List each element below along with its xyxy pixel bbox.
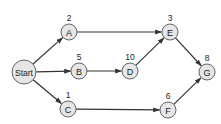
node-G: G8 bbox=[199, 53, 215, 80]
node-weight-E: 3 bbox=[168, 13, 173, 23]
node-label-A: A bbox=[66, 28, 72, 38]
node-label-F: F bbox=[165, 106, 171, 116]
edge-start-to-C bbox=[33, 80, 61, 104]
node-F: F6 bbox=[160, 91, 176, 118]
edge-start-to-A bbox=[33, 38, 63, 64]
node-weight-A: 2 bbox=[67, 13, 72, 23]
node-weight-G: 8 bbox=[205, 53, 210, 63]
node-weight-F: 6 bbox=[166, 91, 171, 101]
node-start: Start bbox=[12, 60, 36, 84]
node-weight-C: 1 bbox=[66, 90, 71, 100]
node-label-B: B bbox=[76, 67, 82, 77]
nodes-layer: StartA2B5C1D10E3F6G8 bbox=[12, 13, 215, 118]
network-diagram: StartA2B5C1D10E3F6G8 bbox=[0, 0, 221, 124]
node-A: A2 bbox=[61, 13, 77, 40]
node-C: C1 bbox=[60, 90, 76, 117]
node-label-start: Start bbox=[15, 68, 34, 78]
edges-layer bbox=[33, 32, 201, 110]
node-B: B5 bbox=[71, 52, 87, 79]
node-label-G: G bbox=[203, 68, 210, 78]
node-D: D10 bbox=[122, 52, 138, 79]
node-weight-B: 5 bbox=[77, 52, 82, 62]
node-label-E: E bbox=[167, 28, 173, 38]
edge-C-to-F bbox=[76, 109, 160, 110]
node-E: E3 bbox=[162, 13, 178, 40]
edge-E-to-G bbox=[175, 38, 201, 66]
node-label-D: D bbox=[127, 67, 134, 77]
edge-start-to-B bbox=[36, 71, 71, 72]
node-label-C: C bbox=[65, 105, 72, 115]
edge-F-to-G bbox=[174, 78, 201, 104]
edge-D-to-E bbox=[136, 38, 164, 65]
node-weight-D: 10 bbox=[125, 52, 135, 62]
